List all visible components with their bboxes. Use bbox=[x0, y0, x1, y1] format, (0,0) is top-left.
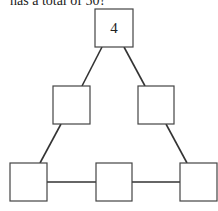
box-bottom-right[interactable] bbox=[180, 163, 217, 201]
edge-top-to-middle-left bbox=[82, 47, 102, 86]
box-bottom-left[interactable] bbox=[10, 163, 47, 201]
edge-middle-left-to-bottom-left bbox=[40, 124, 61, 163]
box-top[interactable]: 4 bbox=[95, 9, 133, 47]
box-middle-left[interactable] bbox=[53, 86, 90, 124]
box-middle-right[interactable] bbox=[138, 86, 174, 124]
number-triangle-diagram: 4 bbox=[0, 0, 218, 211]
box-bottom-middle[interactable] bbox=[96, 163, 132, 201]
box-top-value: 4 bbox=[110, 20, 118, 36]
edge-top-to-middle-right bbox=[124, 47, 145, 86]
edge-middle-right-to-bottom-right bbox=[166, 124, 187, 163]
